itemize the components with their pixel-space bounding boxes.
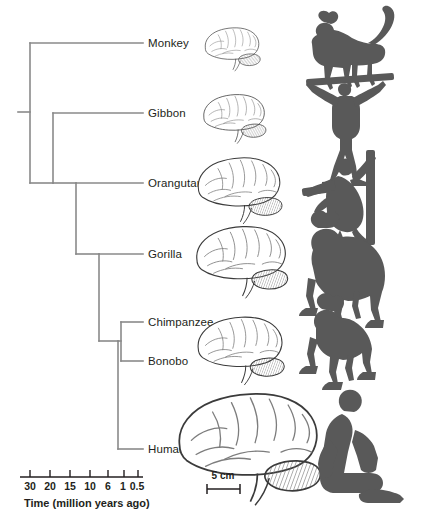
scale-bar-label: 5 cm [212,470,235,481]
phylogeny-figure: Monkey Gibbon Orangutan Gorilla Chimpanz… [0,0,425,528]
scale-bar [0,0,425,528]
